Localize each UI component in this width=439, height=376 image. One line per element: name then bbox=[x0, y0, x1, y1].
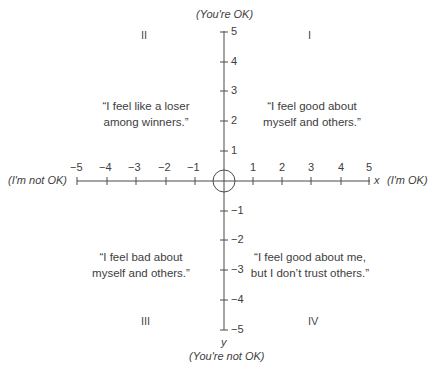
x-tick-label: 1 bbox=[250, 161, 256, 173]
quote-line: myself and others.” bbox=[262, 114, 362, 130]
y-tick-label: −5 bbox=[231, 323, 244, 335]
x-tick-label: 4 bbox=[338, 161, 344, 173]
y-tick-label: −4 bbox=[231, 293, 244, 305]
y-positive-label: (You're OK) bbox=[196, 8, 253, 20]
quote-line: “I feel bad about bbox=[91, 249, 191, 265]
quadrant-quote-iv: “I feel good about me, but I don’t trust… bbox=[250, 249, 370, 281]
y-axis-name: y bbox=[221, 336, 227, 348]
x-tick-label: 5 bbox=[366, 161, 372, 173]
y-tick-label: −3 bbox=[231, 263, 244, 275]
quote-line: “I feel good about bbox=[262, 98, 362, 114]
y-tick-label: 4 bbox=[231, 55, 237, 67]
quadrant-numeral-iii: III bbox=[141, 315, 150, 327]
x-tick-label: −5 bbox=[70, 161, 83, 173]
quadrant-quote-ii: “I feel like a loser among winners.” bbox=[96, 98, 196, 130]
x-tick-label: −4 bbox=[99, 161, 112, 173]
quote-line: myself and others.” bbox=[91, 265, 191, 281]
x-tick-label: 2 bbox=[279, 161, 285, 173]
y-tick-label: 3 bbox=[231, 84, 237, 96]
y-tick-label: 1 bbox=[231, 144, 237, 156]
quadrant-numeral-i: I bbox=[308, 29, 311, 41]
y-tick-label: −1 bbox=[231, 204, 244, 216]
y-tick-label: 2 bbox=[231, 114, 237, 126]
quadrant-quote-iii: “I feel bad about myself and others.” bbox=[91, 249, 191, 281]
x-tick-label: −2 bbox=[158, 161, 171, 173]
x-tick-label: −3 bbox=[128, 161, 141, 173]
x-positive-label: (I'm OK) bbox=[387, 174, 428, 186]
y-tick-label: −2 bbox=[231, 233, 244, 245]
y-negative-label: (You're not OK) bbox=[189, 350, 264, 362]
quote-line: “I feel good about me, bbox=[250, 249, 370, 265]
x-negative-label: (I'm not OK) bbox=[8, 174, 67, 186]
quote-line: among winners.” bbox=[96, 114, 196, 130]
quote-line: but I don’t trust others.” bbox=[250, 265, 370, 281]
axes-graphic bbox=[0, 0, 439, 376]
x-axis-name: x bbox=[374, 174, 380, 186]
quadrant-numeral-ii: II bbox=[141, 29, 147, 41]
x-tick-label: −1 bbox=[187, 161, 200, 173]
quote-line: “I feel like a loser bbox=[96, 98, 196, 114]
x-tick-label: 3 bbox=[308, 161, 314, 173]
quadrant-quote-i: “I feel good about myself and others.” bbox=[262, 98, 362, 130]
quadrant-numeral-iv: IV bbox=[308, 315, 318, 327]
y-tick-label: 5 bbox=[231, 25, 237, 37]
